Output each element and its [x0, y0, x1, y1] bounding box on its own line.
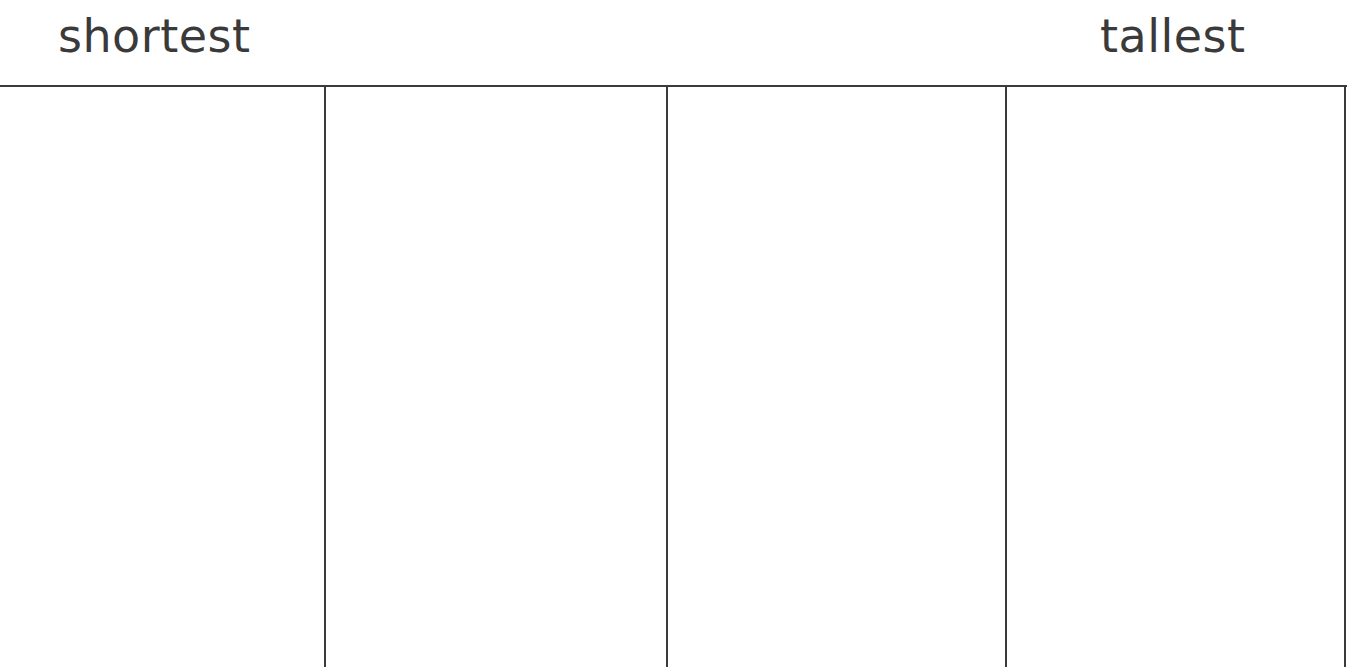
column-3-cell — [668, 87, 1007, 667]
ordering-table — [0, 85, 1347, 667]
column-4-cell — [1007, 87, 1346, 667]
column-1-cell — [0, 87, 326, 667]
column-2-cell — [326, 87, 668, 667]
shortest-label: shortest — [58, 6, 251, 66]
tallest-label: tallest — [1100, 6, 1246, 66]
